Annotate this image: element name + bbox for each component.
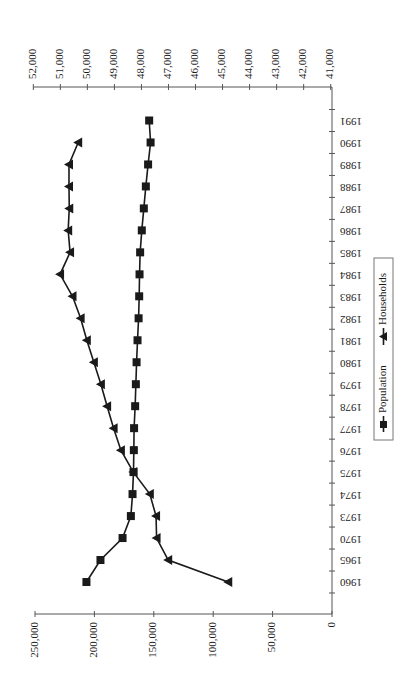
population-marker (133, 358, 141, 366)
year-tick-label: 1970 (340, 534, 363, 546)
year-tick-label: 1986 (340, 226, 363, 238)
population-marker (140, 204, 148, 212)
households-marker (73, 137, 82, 147)
population-marker (96, 556, 104, 564)
population-axis-tick-label: 0 (325, 622, 337, 628)
households-marker (163, 555, 172, 565)
population-marker (136, 248, 144, 256)
population-marker (147, 138, 155, 146)
series-layer (55, 117, 232, 588)
year-tick-label: 1981 (340, 336, 362, 348)
population-marker (127, 512, 135, 520)
households-axis-tick-label: 49,000 (107, 48, 119, 79)
chart-canvas: 41,00042,00043,00044,00045,00046,00047,0… (0, 0, 415, 700)
households-marker (223, 577, 232, 587)
year-tick-label: 1977 (340, 424, 363, 436)
households-axis-tick-label: 48,000 (134, 48, 146, 79)
year-tick-label: 1960 (340, 577, 363, 589)
population-marker (145, 117, 153, 125)
households-axis-tick-label: 46,000 (188, 48, 200, 79)
households-axis-tick-label: 51,000 (53, 48, 65, 79)
households-axis-tick-label: 45,000 (215, 48, 227, 79)
year-tick-label: 1987 (340, 204, 363, 216)
population-marker (82, 578, 90, 586)
year-tick-label: 1983 (340, 292, 363, 304)
population-marker (138, 226, 146, 234)
year-tick-label: 1973 (340, 512, 363, 524)
population-line (86, 121, 150, 583)
households-axis-tick-label: 43,000 (269, 48, 281, 79)
population-marker (129, 490, 137, 498)
households-axis-tick-label: 52,000 (26, 48, 38, 79)
population-marker (142, 182, 150, 190)
households-axis-tick-label: 41,000 (323, 48, 335, 79)
households-axis-tick-label: 47,000 (161, 48, 173, 79)
population-marker (130, 446, 138, 454)
population-axis-tick-label: 200,000 (87, 622, 99, 658)
population-marker (135, 314, 143, 322)
population-marker (119, 534, 127, 542)
year-tick-label: 1989 (340, 160, 363, 172)
year-tick-label: 1980 (340, 358, 363, 370)
population-marker (136, 270, 144, 278)
year-tick-label: 1974 (340, 490, 363, 502)
year-tick-label: 1976 (340, 446, 363, 458)
legend-households-label: Households (376, 273, 388, 325)
year-axis: 1960196519701973197419751976197719781979… (329, 87, 362, 614)
population-marker (134, 336, 142, 344)
legend-population-label: Population (376, 365, 388, 413)
year-tick-label: 1978 (340, 402, 363, 414)
year-tick-label: 1979 (340, 380, 363, 392)
year-tick-label: 1991 (340, 116, 362, 128)
population-marker (132, 380, 140, 388)
households-marker (145, 489, 154, 499)
households-marker (55, 269, 64, 279)
population-marker (144, 160, 152, 168)
households-axis-tick-label: 50,000 (80, 48, 92, 79)
population-axis: 050,000100,000150,000200,000250,000 (28, 611, 337, 658)
households-axis-tick-label: 42,000 (296, 48, 308, 79)
population-axis-tick-label: 50,000 (265, 622, 277, 653)
population-axis-tick-label: 250,000 (28, 622, 40, 658)
legend-population-square-icon (380, 421, 387, 428)
households-axis: 41,00042,00043,00044,00045,00046,00047,0… (26, 48, 335, 90)
year-tick-label: 1988 (340, 182, 363, 194)
year-tick-label: 1975 (340, 468, 363, 480)
year-tick-label: 1965 (340, 555, 363, 567)
households-marker (68, 291, 77, 301)
population-marker (131, 402, 139, 410)
population-marker (130, 424, 138, 432)
population-axis-tick-label: 150,000 (146, 622, 158, 658)
year-tick-label: 1985 (340, 248, 363, 260)
year-tick-label: 1982 (340, 314, 362, 326)
households-axis-tick-label: 44,000 (242, 48, 254, 79)
legend: PopulationHouseholds (374, 258, 393, 440)
population-axis-tick-label: 100,000 (206, 622, 218, 658)
population-marker (135, 292, 143, 300)
year-tick-label: 1984 (340, 270, 363, 282)
year-tick-label: 1990 (340, 138, 363, 150)
